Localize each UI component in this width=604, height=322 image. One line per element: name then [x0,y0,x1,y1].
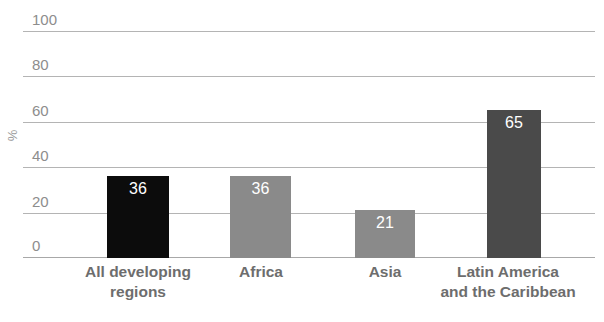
bar-value-label: 36 [230,180,291,198]
category-label-line1: Africa [215,262,307,282]
bar-chart: % 100 80 60 40 20 0 36 36 21 65 [0,0,604,322]
category-label-asia: Asia [345,262,425,282]
y-axis-title: % [5,116,20,156]
category-label-line1: All developing [58,262,218,282]
bar-value-label: 21 [355,214,415,232]
bar-all-developing-regions[interactable]: 36 [107,176,169,258]
bar-value-label: 65 [487,114,541,132]
y-tick-label-60: 60 [32,103,49,118]
y-tick-label-80: 80 [32,57,49,72]
bar-africa[interactable]: 36 [230,176,291,258]
bar-value-label: 36 [107,180,169,198]
category-label-all-developing-regions: All developing regions [58,262,218,301]
category-label-line2: and the Caribbean [421,282,595,302]
y-tick-label-100: 100 [32,12,57,27]
gridline-80 [23,76,595,77]
category-label-line2: regions [58,282,218,302]
category-label-line1: Latin America [421,262,595,282]
bar-asia[interactable]: 21 [355,210,415,258]
category-label-africa: Africa [215,262,307,282]
category-label-latin-america-caribbean: Latin America and the Caribbean [421,262,595,301]
bar-latin-america-caribbean[interactable]: 65 [487,110,541,258]
y-tick-label-20: 20 [32,194,49,209]
plot-area: 100 80 60 40 20 0 36 36 21 65 [23,0,595,258]
y-tick-label-0: 0 [32,238,40,253]
category-axis: All developing regions Africa Asia Latin… [23,262,595,322]
y-tick-label-40: 40 [32,148,49,163]
category-label-line1: Asia [345,262,425,282]
gridline-100 [23,31,595,32]
